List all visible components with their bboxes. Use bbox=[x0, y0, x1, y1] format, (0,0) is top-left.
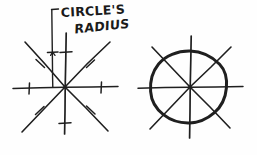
leader-vertical-line bbox=[52, 10, 53, 87]
radius-tick-north-west bbox=[36, 60, 45, 68]
figure-left-rays-with-ticks bbox=[13, 33, 118, 134]
radius-tick-west bbox=[29, 83, 30, 94]
leader-bracket-flag bbox=[52, 9, 59, 10]
radius-tick-north bbox=[60, 52, 72, 53]
circle-construction-diagram: CIRCLE'S RADIUS bbox=[0, 0, 257, 155]
radius-tick-south bbox=[59, 123, 71, 124]
sketch-canvas: CIRCLE'S RADIUS bbox=[0, 0, 257, 155]
radius-tick-east bbox=[101, 82, 102, 93]
radius-callout-leader bbox=[48, 9, 59, 87]
radius-label-group: CIRCLE'S RADIUS bbox=[60, 2, 129, 37]
center-point-left-figure bbox=[63, 85, 67, 89]
figure-right-rays-with-circle bbox=[138, 36, 243, 138]
center-point-right-figure bbox=[188, 85, 192, 89]
ray-vertical-left-figure bbox=[65, 33, 67, 134]
